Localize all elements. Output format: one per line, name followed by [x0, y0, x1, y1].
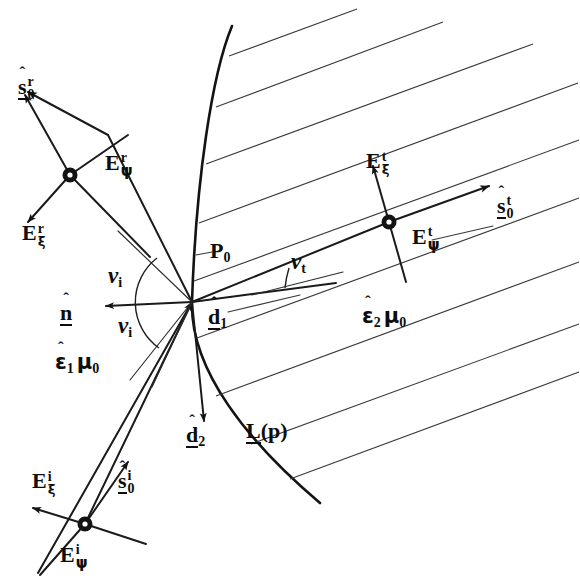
normal-vector-n: [106, 302, 192, 306]
nu-i-lower-base: ν: [118, 313, 128, 338]
label-E-psi-i: Eiψ: [60, 544, 88, 572]
s0-t-indices: t0: [507, 195, 514, 221]
nu-i-lower-sub: i: [128, 325, 132, 340]
L-arg: (p): [261, 418, 288, 443]
d2-sub: 2: [198, 434, 205, 449]
E-xi-i-indices: iξ: [48, 471, 56, 496]
E-xi-r-arrow: [28, 175, 70, 222]
label-s0-i: ˆsi0: [118, 470, 135, 497]
label-E-xi-r: Erξ: [22, 222, 45, 249]
label-d2: ˆd2: [186, 424, 205, 449]
E-psi-r-base: E: [105, 150, 120, 175]
E-psi-i-line: [85, 524, 146, 544]
mu0-sub-1: 0: [92, 361, 99, 376]
label-E-xi-i: Eiξ: [32, 470, 55, 497]
label-E-psi-t: Etψ: [412, 226, 440, 254]
mu0-base-1: μ: [77, 350, 92, 374]
label-E-psi-r: Erψ: [105, 152, 133, 180]
hat-accent-eps2: ˆ: [365, 293, 371, 310]
diagram-svg: [0, 0, 580, 587]
eps2-sub: 2: [374, 315, 381, 330]
L-base: L: [246, 420, 261, 442]
leader-d1: [228, 295, 300, 312]
reflected-ray-arrow: [28, 92, 108, 135]
E-xi-t-indices: tξ: [382, 151, 390, 176]
E-psi-i-indices: iψ: [76, 544, 88, 571]
nu-t-base: ν: [291, 249, 301, 274]
label-E-xi-t: Etξ: [366, 150, 389, 177]
label-P0: P0: [210, 240, 230, 265]
E-psi-r-indices: rψ: [121, 152, 133, 179]
label-nu-t: νt: [291, 250, 306, 276]
s0-r-base: s: [18, 76, 27, 98]
E-psi-t-base: E: [412, 224, 427, 249]
E-xi-r-indices: rξ: [38, 223, 46, 248]
transmitted-node-hole: [386, 219, 391, 224]
label-d1: ˆd1: [208, 306, 227, 331]
d1-base: d: [208, 306, 220, 328]
s0-t-base: s: [497, 195, 506, 217]
E-psi-t-line: [389, 222, 406, 282]
P0-base: P: [210, 238, 223, 263]
hatching-region-2: [194, 9, 579, 479]
label-nu-i-lower: νi: [118, 314, 132, 340]
E-psi-i-base: E: [60, 542, 75, 567]
E-xi-r-base: E: [22, 220, 37, 245]
label-n-hat: ˆn: [60, 302, 72, 324]
nu-i-upper-sub: i: [118, 275, 122, 290]
figure-canvas: ˆsr0 Erψ Erξ P0 νi ˆn νi ˆd1 νt ˆε1μ0 ˆε…: [0, 0, 580, 587]
eps1-sub: 1: [67, 361, 74, 376]
mu0-base-2: μ: [384, 304, 399, 328]
label-s0-t: ˆst0: [497, 195, 514, 222]
d1-sub: 1: [220, 316, 227, 331]
label-medium-1: ˆε1μ0: [55, 352, 99, 376]
mu0-sub-2: 0: [399, 315, 406, 330]
label-L-of-p: L(p): [246, 420, 288, 442]
s0-r-arrow: [25, 95, 70, 175]
hat-accent-eps1: ˆ: [58, 339, 64, 356]
nu-i-upper-base: ν: [108, 263, 118, 288]
E-xi-i-arrow: [33, 508, 85, 524]
incident-node-hole: [82, 521, 87, 526]
E-xi-r-continuation: [70, 175, 150, 257]
nu-t-sub: t: [301, 261, 306, 276]
n-base: n: [60, 302, 72, 324]
s0-r-indices: r0: [28, 76, 35, 102]
transmitted-polarization-cross: [373, 166, 406, 282]
s0-i-indices: i0: [128, 470, 135, 496]
E-psi-t-indices: tψ: [428, 226, 440, 253]
construction-line-upper: [118, 231, 192, 302]
d2-vector: [192, 302, 204, 421]
label-medium-2: ˆε2μ0: [362, 306, 406, 330]
reflected-node-hole: [67, 172, 72, 177]
s0-i-base: s: [118, 470, 127, 492]
angle-arc-nu-t: [285, 268, 289, 288]
P0-sub: 0: [223, 250, 230, 265]
label-s0-r: ˆsr0: [18, 76, 35, 103]
E-xi-t-base: E: [366, 148, 381, 173]
label-nu-i-upper: νi: [108, 264, 122, 290]
E-xi-i-base: E: [32, 468, 47, 493]
d2-base: d: [186, 424, 198, 446]
